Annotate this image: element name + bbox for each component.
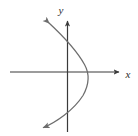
coordinate-plane-svg: y x: [0, 0, 138, 136]
graph-figure: y x: [0, 0, 138, 136]
x-axis-label: x: [125, 68, 131, 80]
y-axis-label: y: [58, 4, 64, 16]
curve-sideways-parabola: [44, 23, 88, 128]
